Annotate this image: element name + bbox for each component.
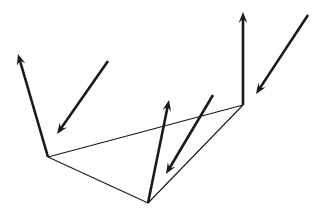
diagram-canvas: Triangular surface with incident and ref…	[0, 0, 322, 215]
vector-diagram: Triangular surface with incident and ref…	[0, 0, 322, 215]
diagram-background	[0, 0, 322, 215]
